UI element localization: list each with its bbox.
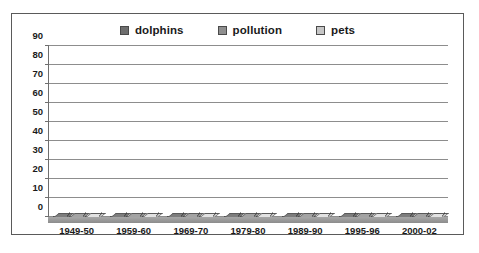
x-axis-label: 1989-90 [277,225,334,236]
bar-group-2000-02 [391,46,448,217]
legend-item-pets[interactable]: pets [316,24,355,36]
x-axis-labels: 1949-501959-601969-701979-801989-901995-… [48,225,448,236]
bar-group-1995-96 [334,46,391,217]
legend-item-label: pets [331,24,355,36]
legend-item-dolphins[interactable]: dolphins [120,24,184,36]
legend-item-label: pollution [233,24,282,36]
plot-area: 0102030405060708090 [48,46,448,217]
x-axis-label: 2000-02 [391,225,448,236]
bar-groups [48,46,448,217]
x-axis-label: 1995-96 [334,225,391,236]
bar-group-1979-80 [219,46,276,217]
y-axis-tick-label: 90 [32,30,43,41]
bar-group-1949-50 [48,46,105,217]
chart-legend: dolphinspollutionpets [12,24,463,36]
bar-group-1959-60 [105,46,162,217]
y-axis-tick-label: 50 [32,106,43,117]
x-axis-label: 1949-50 [48,225,105,236]
y-axis-tick-label: 40 [32,125,43,136]
chart-frame: dolphinspollutionpets 010203040506070809… [11,13,464,235]
legend-item-pollution[interactable]: pollution [218,24,282,36]
bar-group-1969-70 [162,46,219,217]
legend-swatch-icon [316,26,325,35]
bar-group-1989-90 [277,46,334,217]
x-axis-label: 1959-60 [105,225,162,236]
y-axis-tick-label: 20 [32,163,43,174]
x-axis-label: 1979-80 [219,225,276,236]
y-axis-tick-label: 10 [32,182,43,193]
legend-item-label: dolphins [135,24,184,36]
y-axis-tick-label: 0 [38,201,43,212]
y-axis-tick-label: 70 [32,68,43,79]
legend-swatch-icon [218,26,227,35]
floor-depth [48,217,448,223]
y-axis-tick-label: 80 [32,49,43,60]
y-axis-tick-label: 60 [32,87,43,98]
y-axis-tick-label: 30 [32,144,43,155]
legend-swatch-icon [120,26,129,35]
chart-screenshot: dolphinspollutionpets 010203040506070809… [0,0,479,253]
x-axis-label: 1969-70 [162,225,219,236]
